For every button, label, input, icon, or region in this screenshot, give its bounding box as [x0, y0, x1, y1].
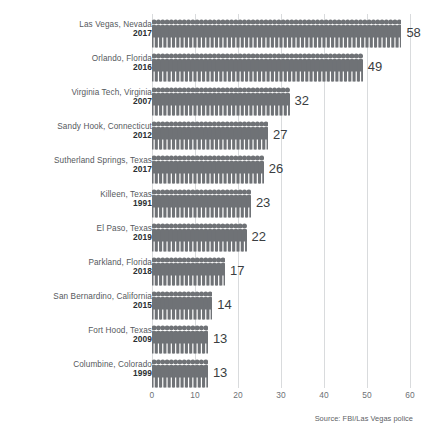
bar-value-label: 26: [269, 161, 283, 176]
bar-value-label: 17: [230, 263, 244, 278]
row-label-year: 2009: [0, 335, 152, 344]
pictogram-bar: [152, 324, 208, 354]
bar-value-label: 13: [213, 365, 227, 380]
x-tick-60: 60: [405, 390, 415, 400]
row-label-year: 1991: [0, 199, 152, 208]
pictogram-bar: [152, 18, 401, 48]
row-label: San Bernardino, California2015: [0, 292, 152, 311]
bar-value-label: 27: [273, 127, 287, 142]
bar-value-label: 32: [295, 93, 309, 108]
row-label: Las Vegas, Nevada2017: [0, 20, 152, 39]
bar-value-label: 49: [368, 59, 382, 74]
row-label-year: 2012: [0, 131, 152, 140]
pictogram-bar: [152, 86, 290, 116]
chart-row: Fort Hood, Texas200913: [0, 324, 447, 358]
pictogram-bar: [152, 120, 268, 150]
chart-row: Virginia Tech, Virginia200732: [0, 86, 447, 120]
chart-row: Columbine, Colorado199913: [0, 358, 447, 392]
pictogram-bar: [152, 290, 212, 320]
row-label-year: 2017: [0, 165, 152, 174]
row-label: Virginia Tech, Virginia2007: [0, 88, 152, 107]
bar-value-label: 14: [217, 297, 231, 312]
pictogram-bar: [152, 52, 363, 82]
row-label: Fort Hood, Texas2009: [0, 326, 152, 345]
x-tick-50: 50: [362, 390, 372, 400]
row-label-year: 1999: [0, 369, 152, 378]
row-label: Killeen, Texas1991: [0, 190, 152, 209]
row-label-place: Fort Hood, Texas: [0, 326, 152, 335]
x-tick-0: 0: [150, 390, 155, 400]
row-label-place: Las Vegas, Nevada: [0, 20, 152, 29]
chart-row: Parkland, Florida201817: [0, 256, 447, 290]
row-label-year: 2007: [0, 97, 152, 106]
pictogram-bar: [152, 188, 251, 218]
row-label-year: 2017: [0, 29, 152, 38]
row-label: Columbine, Colorado1999: [0, 360, 152, 379]
bar-value-label: 58: [406, 25, 420, 40]
pictogram-bar: [152, 256, 225, 286]
row-label-year: 2015: [0, 301, 152, 310]
chart-row: Las Vegas, Nevada201758: [0, 18, 447, 52]
chart-row: El Paso, Texas201922: [0, 222, 447, 256]
chart-row: San Bernardino, California201514: [0, 290, 447, 324]
row-label-place: Columbine, Colorado: [0, 360, 152, 369]
row-label: Orlando, Florida2016: [0, 54, 152, 73]
x-tick-10: 10: [190, 390, 200, 400]
x-tick-20: 20: [233, 390, 243, 400]
bar-value-label: 13: [213, 331, 227, 346]
row-label: El Paso, Texas2019: [0, 224, 152, 243]
chart-row: Killeen, Texas199123: [0, 188, 447, 222]
row-label-year: 2018: [0, 267, 152, 276]
x-tick-30: 30: [276, 390, 286, 400]
row-label-place: Orlando, Florida: [0, 54, 152, 63]
chart-row: Sutherland Springs, Texas201726: [0, 154, 447, 188]
bar-value-label: 22: [252, 229, 266, 244]
row-label: Sutherland Springs, Texas2017: [0, 156, 152, 175]
x-tick-40: 40: [319, 390, 329, 400]
row-label-place: San Bernardino, California: [0, 292, 152, 301]
pictogram-bar: [152, 358, 208, 388]
row-label-year: 2019: [0, 233, 152, 242]
x-axis: 0102030405060: [0, 390, 447, 406]
chart-row: Orlando, Florida201649: [0, 52, 447, 86]
row-label-place: Parkland, Florida: [0, 258, 152, 267]
pictogram-bar: [152, 222, 247, 252]
row-label-place: Killeen, Texas: [0, 190, 152, 199]
row-label-year: 2016: [0, 63, 152, 72]
source-note: Source: FBI/Las Vegas police: [315, 414, 413, 423]
row-label-place: Virginia Tech, Virginia: [0, 88, 152, 97]
row-label-place: Sutherland Springs, Texas: [0, 156, 152, 165]
pictogram-bar: [152, 154, 264, 184]
row-label: Sandy Hook, Connecticut2012: [0, 122, 152, 141]
row-label-place: Sandy Hook, Connecticut: [0, 122, 152, 131]
pictogram-bar-chart: Las Vegas, Nevada201758Orlando, Florida2…: [0, 0, 447, 441]
row-label-place: El Paso, Texas: [0, 224, 152, 233]
chart-row: Sandy Hook, Connecticut201227: [0, 120, 447, 154]
row-label: Parkland, Florida2018: [0, 258, 152, 277]
bar-value-label: 23: [256, 195, 270, 210]
